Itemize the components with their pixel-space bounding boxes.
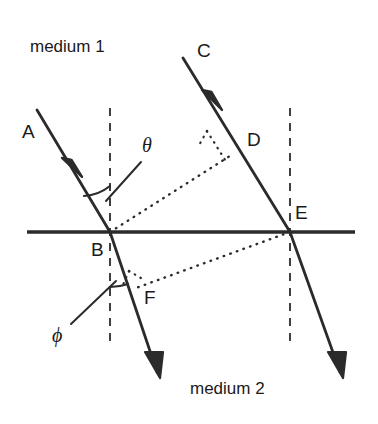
wavefront-ef-dotted xyxy=(136,232,290,288)
medium-1-label: medium 1 xyxy=(30,38,105,55)
point-b-label: B xyxy=(91,240,104,259)
angle-leader-phi xyxy=(71,281,116,324)
incident-ray-a xyxy=(37,110,110,232)
incident-ray-a-arrowhead xyxy=(62,158,82,177)
right-angle-marker-f xyxy=(129,271,146,281)
angle-theta-label: θ xyxy=(142,135,152,155)
right-angle-marker-d-leg xyxy=(198,131,207,147)
point-a-label: A xyxy=(22,122,35,141)
point-e-label: E xyxy=(295,203,308,222)
point-c-label: C xyxy=(197,41,211,60)
refracted-ray-b-arrowhead xyxy=(145,352,163,378)
refraction-diagram: medium 1 medium 2 A B C D E F θ ϕ xyxy=(0,0,378,424)
angle-leader-theta xyxy=(106,162,141,201)
refracted-ray-e-arrowhead xyxy=(328,352,346,378)
diagram-canvas xyxy=(0,0,378,424)
wavefront-bd-dotted xyxy=(110,154,233,232)
incident-ray-c xyxy=(183,58,290,232)
angle-phi-label: ϕ xyxy=(52,325,62,345)
right-angle-marker-d xyxy=(207,131,227,163)
point-d-label: D xyxy=(247,130,261,149)
medium-2-label: medium 2 xyxy=(190,380,265,397)
point-f-label: F xyxy=(144,288,156,307)
